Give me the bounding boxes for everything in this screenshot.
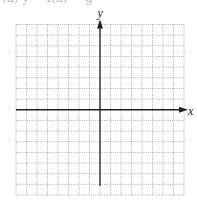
x-axis-label: x	[187, 104, 194, 118]
y-axis-arrow-icon	[97, 20, 103, 29]
x-axis-arrow-icon	[179, 107, 188, 113]
coordinate-grid: x y	[0, 0, 197, 207]
y-axis-label: y	[97, 6, 104, 20]
